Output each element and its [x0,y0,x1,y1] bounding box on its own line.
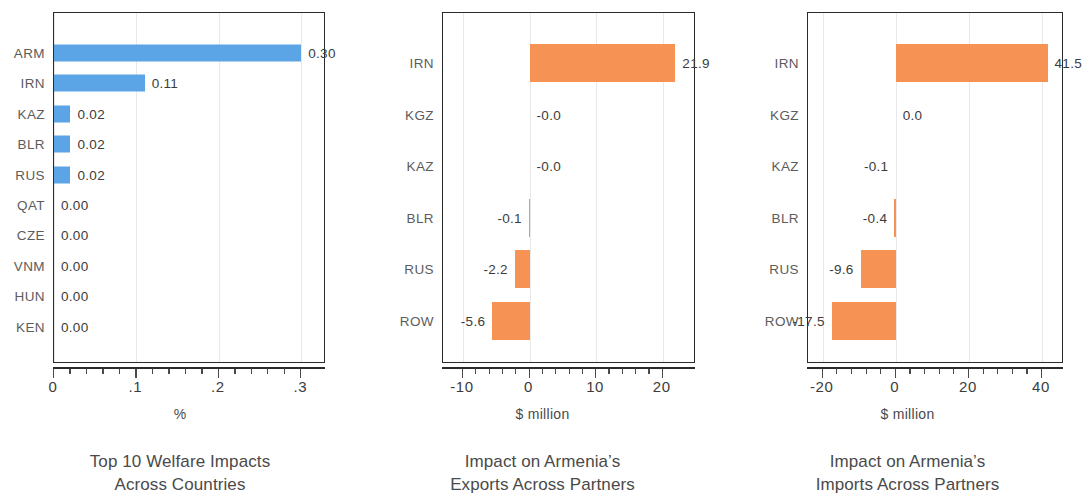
axis-tick-minor [201,369,202,374]
axis-tick-major [822,369,823,378]
axis-tick-label: 20 [959,378,977,395]
bar-rus [515,250,530,288]
axis-tick-label: 0 [49,378,58,395]
category-label-blr: BLR [772,210,799,225]
axis-tick-minor [234,369,235,374]
value-label-cze: 0.00 [61,228,88,243]
axis-tick-major [1041,369,1042,378]
axis-tick-major [895,369,896,378]
axis-tick-minor [251,369,252,374]
gridline [219,13,220,362]
axis-tick-minor [909,369,910,374]
axis-tick-minor [569,369,570,374]
bar-kaz [54,105,70,122]
value-label-kgz: 0.0 [903,107,923,122]
axis-tick-minor [102,369,103,374]
axis-tick-minor [555,369,556,374]
value-label-rus: 0.02 [77,167,104,182]
axis-tick-label: -10 [450,378,473,395]
category-label-kaz: KAZ [407,159,434,174]
x-axis-title-panel-3: $ million [725,406,1090,422]
bar-irn [896,44,1048,82]
value-label-kaz: -0.0 [537,159,561,174]
axis-tick-minor [648,369,649,374]
category-label-kaz: KAZ [772,159,799,174]
axis-tick-minor [489,369,490,374]
plot-area-panel-1: ARM0.30IRN0.11KAZ0.02BLR0.02RUS0.02QAT0.… [53,12,325,363]
axis-tick-minor [953,369,954,374]
axis-tick-minor [515,369,516,374]
axis-tick-major [529,369,530,378]
category-label-irn: IRN [410,56,434,71]
x-axis-title-panel-1: % [0,406,360,422]
gridline [463,13,464,362]
value-label-blr: -0.4 [863,210,887,225]
axis-tick-major [218,369,219,378]
bar-blr [54,136,70,153]
value-label-blr: 0.02 [77,137,104,152]
category-label-rus: RUS [404,262,434,277]
gridline [301,13,302,362]
value-label-irn: 0.11 [152,76,178,91]
axis-tick-label: 0 [890,378,899,395]
axis-tick-minor [542,369,543,374]
axis-tick-minor [924,369,925,374]
category-label-qat: QAT [17,198,45,213]
category-label-rus: RUS [769,262,799,277]
axis-tick-minor [983,369,984,374]
axis-tick-minor [939,369,940,374]
caption-line-2: Imports Across Partners [725,473,1090,496]
axis-tick-minor [284,369,285,374]
axis-line [807,367,1063,369]
axis-tick-minor [1026,369,1027,374]
bar-row [832,302,896,340]
category-label-vnm: VNM [14,258,45,273]
gridline [54,13,55,362]
value-label-hun: 0.00 [61,289,88,304]
category-label-blr: BLR [18,137,45,152]
axis-tick-major [968,369,969,378]
axis-tick-minor [851,369,852,374]
category-label-irn: IRN [775,56,799,71]
value-label-kaz: -0.1 [864,159,888,174]
panel-caption-2: Impact on Armenia’s Exports Across Partn… [360,450,725,496]
chart-panel-armenia-imports: IRN41.5KGZ0.0KAZ-0.1BLR-0.4RUS-9.6ROW-17… [725,0,1090,483]
category-label-kgz: KGZ [405,107,434,122]
category-label-arm: ARM [14,46,45,61]
value-label-rus: -2.2 [483,262,507,277]
axis-tick-major [53,369,54,378]
chart-panel-armenia-exports: IRN21.9KGZ-0.0KAZ-0.0BLR-0.1RUS-2.2ROW-5… [360,0,725,483]
bar-rus [54,166,70,183]
plot-area-panel-2: IRN21.9KGZ-0.0KAZ-0.0BLR-0.1RUS-2.2ROW-5… [442,12,695,363]
bar-arm [54,45,301,62]
axis-tick-label: 20 [653,378,671,395]
axis-tick-minor [836,369,837,374]
axis-tick-label: 0 [524,378,533,395]
value-label-qat: 0.00 [61,198,88,213]
bar-rus [861,250,896,288]
axis-tick-minor [635,369,636,374]
axis-tick-minor [582,369,583,374]
category-label-cze: CZE [17,228,45,243]
category-label-blr: BLR [407,210,434,225]
axis-tick-label: 40 [1032,378,1050,395]
chart-panel-welfare-impacts: ARM0.30IRN0.11KAZ0.02BLR0.02RUS0.02QAT0.… [0,0,360,483]
category-label-ken: KEN [16,319,45,334]
axis-tick-label: .2 [211,378,225,395]
axis-tick-minor [997,369,998,374]
bar-irn [54,75,145,92]
value-label-irn: 41.5 [1055,56,1082,71]
category-label-rus: RUS [15,167,45,182]
caption-line-2: Exports Across Partners [360,473,725,496]
caption-line-1: Top 10 Welfare Impacts [0,450,360,473]
axis-tick-minor [502,369,503,374]
gridline [136,13,137,362]
plot-area-panel-3: IRN41.5KGZ0.0KAZ-0.1BLR-0.4RUS-9.6ROW-17… [807,12,1063,363]
axis-tick-label: .3 [293,378,307,395]
axis-tick-minor [152,369,153,374]
value-label-vnm: 0.00 [61,258,88,273]
axis-tick-minor [622,369,623,374]
caption-line-1: Impact on Armenia’s [360,450,725,473]
caption-line-1: Impact on Armenia’s [725,450,1090,473]
